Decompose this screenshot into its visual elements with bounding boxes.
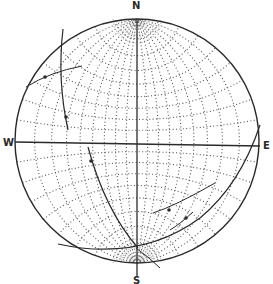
west-label: W	[3, 138, 14, 148]
north-label: N	[132, 1, 140, 11]
stereonet-diagram	[0, 0, 273, 284]
south-label: S	[133, 276, 140, 284]
data-point	[43, 75, 47, 79]
trace-lower-right-2	[170, 212, 193, 230]
data-point	[167, 208, 171, 212]
great-circle-a	[61, 29, 68, 130]
data-point	[184, 216, 188, 220]
data-point	[64, 115, 68, 119]
trace-lower-right-1	[153, 183, 215, 213]
great-circle-b	[88, 147, 138, 248]
east-label: E	[263, 141, 270, 151]
data-point	[89, 159, 93, 163]
